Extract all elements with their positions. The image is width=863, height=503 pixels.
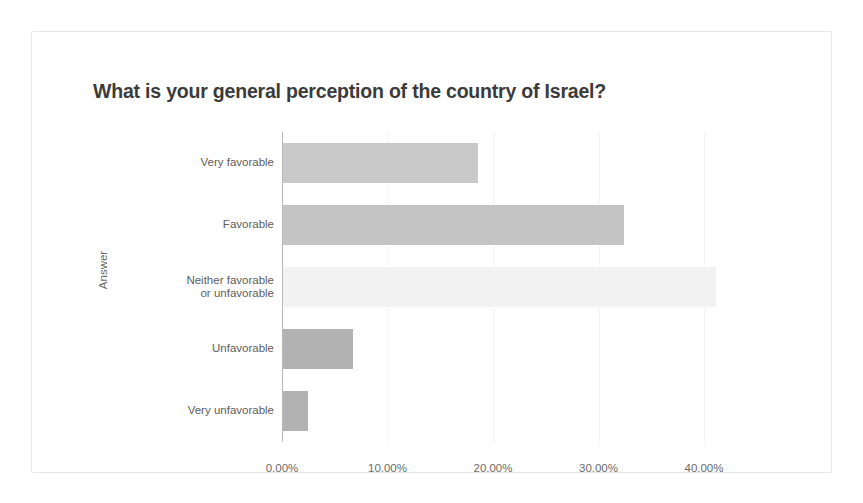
bar-row[interactable] <box>283 318 353 380</box>
category-label: Neither favorableor unfavorable <box>124 274 274 301</box>
category-label: Very unfavorable <box>124 404 274 418</box>
bar-row[interactable] <box>283 380 308 442</box>
x-tick-label: 30.00% <box>579 462 618 474</box>
bar[interactable] <box>283 329 353 369</box>
category-label-line: Neither favorable <box>124 274 274 288</box>
bar[interactable] <box>283 205 624 245</box>
bar-row[interactable] <box>283 132 478 194</box>
category-label-line: Very favorable <box>124 156 274 170</box>
category-label: Unfavorable <box>124 342 274 356</box>
x-tick-label: 40.00% <box>684 462 723 474</box>
x-tick-label: 0.00% <box>266 462 299 474</box>
bar-row[interactable] <box>283 194 624 256</box>
category-label-line: or unfavorable <box>124 287 274 301</box>
chart-title: What is your general perception of the c… <box>93 80 606 103</box>
bar[interactable] <box>283 391 308 431</box>
category-label: Favorable <box>124 218 274 232</box>
x-axis-tick-labels: 0.00%10.00%20.00%30.00%40.00% <box>282 462 712 482</box>
y-axis-category-labels: Very favorableFavorableNeither favorable… <box>124 132 274 442</box>
x-tick-label: 10.00% <box>368 462 407 474</box>
category-label-line: Favorable <box>124 218 274 232</box>
x-tick-label: 20.00% <box>473 462 512 474</box>
bar[interactable] <box>283 143 478 183</box>
plot-area: 0.00%10.00%20.00%30.00%40.00% <box>282 132 712 442</box>
bar-row[interactable] <box>283 256 716 318</box>
category-label-line: Unfavorable <box>124 342 274 356</box>
category-label-line: Very unfavorable <box>124 404 274 418</box>
bar[interactable] <box>283 267 716 307</box>
category-label: Very favorable <box>124 156 274 170</box>
y-axis-title: Answer <box>97 251 109 289</box>
chart-frame: What is your general perception of the c… <box>31 31 832 473</box>
